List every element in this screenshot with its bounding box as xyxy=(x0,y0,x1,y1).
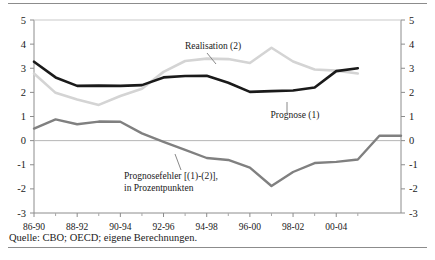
y-tick-label-left: -2 xyxy=(17,183,26,194)
x-tick-label: 00-04 xyxy=(325,222,347,230)
top-rule xyxy=(8,3,427,4)
y-tick-label-left: 0 xyxy=(21,135,26,146)
y-tick-label-left: 5 xyxy=(21,15,26,26)
x-tick-label: 96-00 xyxy=(239,222,261,230)
x-tick-label: 86-90 xyxy=(23,222,45,230)
y-tick-label-right: -1 xyxy=(409,159,418,170)
x-tick-label: 88-92 xyxy=(66,222,88,230)
y-tick-label-right: 3 xyxy=(409,63,414,74)
y-tick-label-right: 5 xyxy=(409,15,414,26)
annotation-prognosefehler-line2: in Prozentpunkten xyxy=(124,183,194,193)
source-note: Quelle: CBO; OECD; eigene Berechnungen. xyxy=(9,232,197,243)
y-tick-label-right: -3 xyxy=(409,208,418,219)
y-tick-label-right: 1 xyxy=(409,111,414,122)
leader-line-prognosefehler xyxy=(175,154,181,170)
y-tick-label-left: 3 xyxy=(21,63,26,74)
y-tick-label-left: -1 xyxy=(17,159,26,170)
annotation-realisation: Realisation (2) xyxy=(185,41,241,52)
y-tick-label-right: -2 xyxy=(409,183,418,194)
line-chart: 554433221100-1-1-2-2-3-386-9088-9290-949… xyxy=(0,8,435,230)
x-tick-label: 90-94 xyxy=(109,222,131,230)
y-tick-label-left: 4 xyxy=(21,39,27,50)
annotation-prognose: Prognose (1) xyxy=(271,110,320,121)
x-tick-label: 92-96 xyxy=(152,222,174,230)
annotation-prognosefehler-line1: Prognosefehler [(1)-(2)], xyxy=(124,171,218,182)
y-tick-label-right: 2 xyxy=(409,87,414,98)
y-tick-label-left: 1 xyxy=(21,111,26,122)
y-tick-label-left: 2 xyxy=(21,87,26,98)
x-tick-label: 94-98 xyxy=(196,222,218,230)
y-tick-label-right: 4 xyxy=(409,39,415,50)
figure-container: 554433221100-1-1-2-2-3-386-9088-9290-949… xyxy=(0,0,435,260)
y-tick-label-left: -3 xyxy=(17,208,26,219)
plot-area-wrapper: 554433221100-1-1-2-2-3-386-9088-9290-949… xyxy=(0,8,435,230)
y-tick-label-right: 0 xyxy=(409,135,414,146)
bottom-rule xyxy=(8,247,427,248)
x-tick-label: 98-02 xyxy=(282,222,304,230)
